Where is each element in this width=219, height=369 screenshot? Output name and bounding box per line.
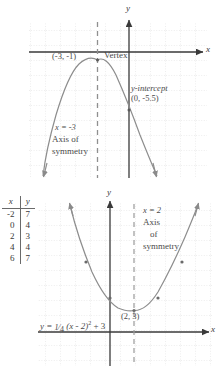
bottom-axis-of-symmetry-equation: x = 2	[143, 206, 161, 215]
parabola-figure: y x (-3, -1) Vertex y-intercept (0, -5.5…	[0, 0, 219, 369]
equation-tail: + 3	[93, 321, 105, 331]
table-row: -2 7	[2, 209, 35, 221]
top-vertex-point	[96, 59, 99, 62]
top-vertex-word-label: Vertex	[104, 51, 128, 60]
bottom-plot-point	[84, 260, 87, 263]
top-axis-of-symmetry-word-2: symmetry	[52, 147, 88, 156]
equation-lhs: y =	[40, 321, 52, 331]
bottom-plot-point	[180, 260, 183, 263]
top-axis-label-x: x	[206, 45, 210, 54]
table: x y -2 7 0 4 2 3 4 4	[2, 196, 35, 264]
table-row: 2 3	[2, 231, 35, 242]
table-row: 4 4	[2, 242, 35, 253]
top-axis-label-y: y	[126, 4, 130, 13]
top-y-intercept-coordinate: (0, -5.5)	[131, 94, 159, 103]
top-vertex-coordinate-label: (-3, -1)	[52, 52, 76, 61]
bottom-axis-of-symmetry-word-1: Axis	[143, 218, 160, 227]
bottom-equation-label: y = 1⁄4 (x - 2)2 + 3	[40, 320, 105, 333]
table-row: 0 4	[2, 220, 35, 231]
bottom-axis-of-symmetry-word-2: of	[150, 230, 158, 239]
table-cell-y: 3	[20, 231, 35, 242]
top-y-intercept-point	[128, 109, 131, 112]
table-cell-y: 7	[20, 209, 35, 221]
table-cell-x: 4	[2, 242, 20, 253]
xy-data-table: x y -2 7 0 4 2 3 4 4	[2, 196, 35, 264]
bottom-axis-of-symmetry-word-3: symmetry	[143, 242, 179, 251]
top-axis-of-symmetry-word-1: Axis of	[52, 135, 79, 144]
table-cell-x: 6	[2, 253, 20, 264]
equation-exponent: 2	[88, 320, 91, 326]
table-cell-x: 2	[2, 231, 20, 242]
table-body: -2 7 0 4 2 3 4 4 6 7	[2, 209, 35, 265]
equation-binomial: (x - 2)	[66, 321, 88, 331]
table-header-x: x	[2, 196, 20, 209]
table-header-row: x y	[2, 196, 35, 209]
table-cell-y: 7	[20, 253, 35, 264]
table-row: 6 7	[2, 253, 35, 264]
bottom-axis-label-y: y	[107, 188, 111, 197]
table-cell-x: 0	[2, 220, 20, 231]
equation-fraction: 1⁄4	[55, 324, 64, 332]
bottom-plot-point	[156, 296, 159, 299]
table-cell-y: 4	[20, 242, 35, 253]
table-header-y: y	[20, 196, 35, 209]
table-cell-y: 4	[20, 220, 35, 231]
bottom-vertex-coordinate-label: (2, 3)	[121, 312, 139, 321]
top-y-intercept-label: y-intercept	[131, 84, 168, 93]
top-axis-of-symmetry-equation: x = -3	[55, 123, 76, 132]
bottom-chart-grid	[38, 202, 212, 366]
equation-denominator: 4	[60, 325, 64, 334]
bottom-axis-label-x: x	[211, 325, 215, 334]
table-cell-x: -2	[2, 209, 20, 221]
bottom-plot-point	[108, 296, 111, 299]
bottom-chart	[38, 201, 212, 366]
